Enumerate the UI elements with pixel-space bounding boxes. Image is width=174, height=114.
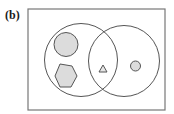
right-set-circle xyxy=(89,26,160,97)
triangle-element xyxy=(99,65,107,72)
small-circle-element xyxy=(131,61,141,71)
left-set-circle xyxy=(45,24,118,97)
hexagon-element xyxy=(55,64,77,87)
venn-diagram xyxy=(0,0,174,114)
universal-set-frame xyxy=(28,9,165,110)
large-circle-element xyxy=(54,33,78,57)
